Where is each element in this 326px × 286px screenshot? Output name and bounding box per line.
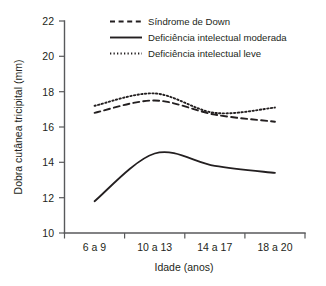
x-tick-label-10-a-13: 10 a 13 [137,241,172,253]
x-tick-label-18-a-20: 18 a 20 [257,241,292,253]
y-tick-label-22: 22 [42,15,54,27]
y-axis-tick-labels: 10 12 14 16 18 20 22 [42,15,54,239]
legend-label-deficiencia-intelectual-moderada: Deficiência intelectual moderada [148,32,287,43]
chart-legend: Síndrome de Down Deficiência intelectual… [110,16,287,59]
line-chart: 10 12 14 16 18 20 22 6 a 9 10 a 13 14 a … [0,0,326,286]
series-line-deficiencia-intelectual-leve [95,93,275,113]
x-tick-label-14-a-17: 14 a 17 [197,241,232,253]
y-axis-ticks [59,21,65,233]
y-tick-label-12: 12 [42,192,54,204]
legend-label-deficiencia-intelectual-leve: Deficiência intelectual leve [148,48,261,59]
y-tick-label-10: 10 [42,227,54,239]
x-axis-title: Idade (anos) [155,261,214,273]
y-tick-label-14: 14 [42,156,54,168]
y-axis-title: Dobra cutânea tricipital (mm) [12,60,24,195]
legend-label-sindrome-de-down: Síndrome de Down [148,16,230,27]
x-tick-label-6-a-9: 6 a 9 [83,241,107,253]
y-tick-label-20: 20 [42,50,54,62]
x-axis-tick-labels: 6 a 9 10 a 13 14 a 17 18 a 20 [83,241,293,253]
y-tick-label-16: 16 [42,121,54,133]
x-axis-ticks [65,233,306,239]
y-tick-label-18: 18 [42,86,54,98]
series-line-deficiencia-intelectual-moderada [95,152,275,201]
chart-figure: 10 12 14 16 18 20 22 6 a 9 10 a 13 14 a … [0,0,326,286]
